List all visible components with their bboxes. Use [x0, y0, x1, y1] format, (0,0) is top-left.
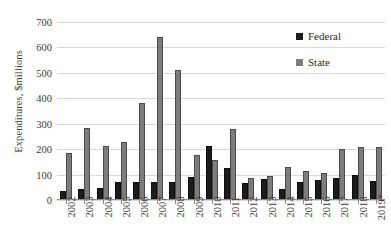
bar-state-2004	[103, 146, 109, 200]
bar-group	[276, 22, 294, 200]
bar-state-2008	[175, 70, 181, 200]
y-axis-tick-label: 400	[36, 93, 52, 104]
bar-group	[203, 22, 221, 200]
y-axis-tick-label: 100	[36, 169, 52, 180]
bar-state-2011	[230, 129, 236, 200]
y-axis-labels: 0100200300400500600700	[0, 0, 57, 250]
x-label-cell: 2008	[166, 205, 184, 250]
x-label-cell: 2007	[148, 205, 166, 250]
legend: Federal State	[296, 30, 341, 82]
bar-group	[75, 22, 93, 200]
bar-state-2006	[139, 103, 145, 200]
y-axis-tick-label: 300	[36, 118, 52, 129]
bar-group	[185, 22, 203, 200]
legend-item-federal: Federal	[296, 30, 341, 42]
x-label-cell: 2010	[203, 205, 221, 250]
legend-swatch-federal-icon	[296, 33, 303, 40]
bar-state-2005	[121, 142, 127, 200]
y-axis-tick-label: 600	[36, 42, 52, 53]
bar-group	[112, 22, 130, 200]
bar-state-2009	[194, 155, 200, 200]
x-label-cell: 2018	[349, 205, 367, 250]
bar-state-2010	[212, 160, 218, 200]
bar-state-2007	[157, 37, 163, 201]
bar-group	[257, 22, 275, 200]
bar-state-2019	[376, 147, 382, 200]
y-axis-tick-label: 0	[47, 195, 52, 206]
x-label-cell: 2015	[294, 205, 312, 250]
bar-state-2018	[358, 147, 364, 200]
bar-group	[221, 22, 239, 200]
y-axis-tick-label: 700	[36, 17, 52, 28]
bar-state-2017	[339, 149, 345, 200]
bar-state-2003	[84, 128, 90, 200]
x-label-cell: 2016	[312, 205, 330, 250]
bar-group	[349, 22, 367, 200]
x-label-cell: 2014	[276, 205, 294, 250]
y-axis-tick-label: 200	[36, 144, 52, 155]
legend-label-state: State	[308, 56, 330, 68]
bar-group	[239, 22, 257, 200]
legend-label-federal: Federal	[308, 30, 341, 42]
bar-group	[57, 22, 75, 200]
bar-group	[93, 22, 111, 200]
x-label-cell: 2013	[257, 205, 275, 250]
x-label-cell: 2017	[330, 205, 348, 250]
x-label-cell: 2005	[112, 205, 130, 250]
legend-swatch-state-icon	[296, 59, 303, 66]
legend-item-state: State	[296, 56, 341, 68]
x-label-cell: 2002	[57, 205, 75, 250]
x-axis-tick-label: 2019*	[376, 194, 387, 220]
bar-state-2014	[285, 167, 291, 200]
bar-group	[148, 22, 166, 200]
bar-group	[130, 22, 148, 200]
x-label-cell: 2011	[221, 205, 239, 250]
bar-group	[367, 22, 385, 200]
x-label-cell: 2009	[185, 205, 203, 250]
x-label-cell: 2019*	[367, 205, 385, 250]
y-axis-tick-label: 500	[36, 67, 52, 78]
x-label-cell: 2004	[93, 205, 111, 250]
x-axis-labels: 2002200320042005200620072008200920102011…	[57, 205, 385, 250]
bar-state-2002	[66, 153, 72, 200]
bar-group	[166, 22, 184, 200]
bar-chart: Expenditures, $millions 0100200300400500…	[0, 0, 391, 250]
x-label-cell: 2006	[130, 205, 148, 250]
x-label-cell: 2012	[239, 205, 257, 250]
x-label-cell: 2003	[75, 205, 93, 250]
